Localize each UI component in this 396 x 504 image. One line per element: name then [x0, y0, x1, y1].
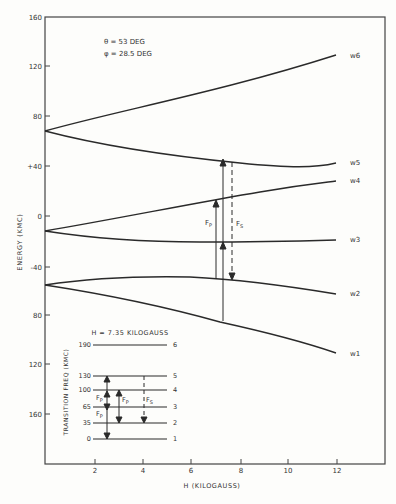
inset-freq: 130	[79, 372, 91, 380]
energy-level-chart: 160 120 80 +40 0 -40 80 120 160 ENERGY (…	[0, 0, 396, 504]
x-tick-label: 8	[239, 467, 243, 475]
inset-fp-label: FP	[96, 410, 103, 419]
inset-level-num: 1	[173, 435, 177, 443]
inset-freq: 0	[87, 435, 91, 443]
inset-title: H = 7.35 KILOGAUSS	[91, 329, 168, 337]
curve-w6	[45, 55, 336, 131]
theta-annotation: θ = 53 DEG	[104, 38, 145, 46]
curve-w4	[45, 181, 336, 231]
y-tick-label: +40	[27, 163, 42, 171]
x-tick-label: 12	[333, 467, 342, 475]
x-tick-label: 4	[141, 467, 146, 475]
inset-level-num: 6	[173, 341, 177, 349]
curve-w3	[45, 231, 336, 242]
inset-y-label: TRANSITION FREQ (KMC)	[62, 349, 69, 437]
inset-fp-label: FP	[96, 394, 103, 403]
inset-freq: 35	[83, 419, 91, 427]
inset-level-num: 4	[173, 386, 177, 394]
x-tick-label: 6	[189, 467, 194, 475]
label-w5: w5	[350, 159, 360, 167]
y-tick-label: -40	[31, 264, 42, 272]
inset-freq: 100	[79, 386, 91, 394]
energy-curves	[45, 55, 336, 353]
inset-fs-label: FS	[146, 396, 153, 405]
x-tick-label: 2	[93, 467, 97, 475]
inset-freq: 65	[83, 403, 91, 411]
label-w4: w4	[350, 177, 361, 185]
label-w1: w1	[350, 350, 360, 358]
inset-level-num: 3	[173, 403, 177, 411]
inset-level-num: 2	[173, 419, 177, 427]
y-tick-label: 160	[29, 411, 42, 419]
y-tick-label: 0	[38, 213, 42, 221]
curve-w2	[45, 277, 336, 294]
curve-w5	[45, 131, 336, 167]
label-w6: w6	[350, 52, 361, 60]
label-w2: w2	[350, 290, 360, 298]
transition-arrows	[213, 159, 235, 321]
inset-fp-label: FP	[122, 396, 129, 405]
x-axis-label: H (KILOGAUSS)	[183, 482, 240, 490]
inset-level-num: 5	[173, 372, 177, 380]
fp-label: FP	[205, 219, 212, 228]
fs-label: FS	[236, 220, 243, 229]
y-tick-label: 120	[29, 63, 42, 71]
y-tick-label: 160	[29, 14, 42, 22]
phi-annotation: φ = 28.5 DEG	[104, 50, 152, 58]
inset-level-diagram: H = 7.35 KILOGAUSS TRANSITION FREQ (KMC)…	[62, 329, 177, 443]
y-axis-label: ENERGY (KMC)	[16, 213, 24, 270]
label-w3: w3	[350, 236, 360, 244]
x-tick-label: 10	[284, 467, 293, 475]
y-tick-label: 120	[29, 361, 42, 369]
y-tick-label: 80	[33, 312, 42, 320]
inset-freq: 190	[79, 341, 91, 349]
y-tick-label: 80	[33, 113, 42, 121]
